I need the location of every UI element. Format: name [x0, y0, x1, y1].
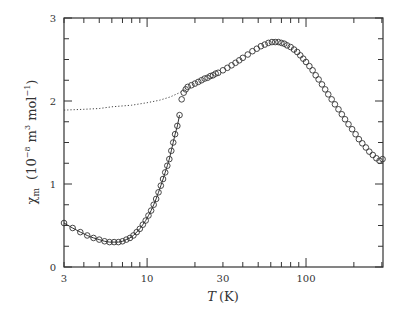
y-axis-title: χm(10−8 m3 mol−1) [23, 80, 41, 205]
x-axis-title: T(K) [207, 289, 239, 304]
data-point [179, 97, 185, 103]
data-point [332, 102, 338, 108]
plot-border [64, 18, 383, 267]
data-series [61, 39, 385, 245]
x-tick-label: 100 [296, 273, 315, 284]
x-tick-label: 10 [141, 273, 154, 284]
y-tick-label: 3 [50, 13, 56, 24]
x-tick-label: 30 [217, 273, 230, 284]
data-point [316, 77, 322, 83]
data-point [353, 131, 359, 137]
y-tick-label: 0 [50, 262, 56, 273]
data-point [319, 82, 325, 88]
data-point [342, 116, 348, 122]
data-point [366, 149, 372, 155]
y-tick-label: 2 [50, 96, 56, 107]
series-open-circles [179, 39, 385, 163]
data-point [325, 92, 331, 98]
data-point [370, 152, 376, 158]
series-dotted-line [64, 90, 184, 110]
series-open-circles-with-line [61, 112, 182, 245]
y-axis-ticks: 0123 [50, 13, 383, 273]
data-point [349, 126, 355, 132]
data-point [254, 46, 260, 52]
x-axis-ticks: 31030100 [61, 18, 382, 284]
data-point [339, 111, 345, 117]
y-tick-label: 1 [50, 179, 56, 190]
plot-frame [64, 18, 383, 267]
data-point [329, 97, 335, 103]
data-point [192, 81, 198, 87]
data-point [225, 65, 231, 71]
x-tick-label: 3 [61, 273, 67, 284]
data-point [346, 121, 352, 127]
chart: 31030100 0123 T(K) χm(10−8 m3 mol−1) [0, 0, 402, 320]
data-point [336, 107, 342, 113]
